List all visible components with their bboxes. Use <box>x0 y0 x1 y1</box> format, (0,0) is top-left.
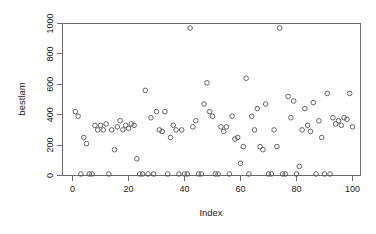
x-tick-label-0: 0 <box>70 184 75 194</box>
y-tick-label-1000: 1000 <box>45 13 55 33</box>
x-tick-label-40: 40 <box>179 184 189 194</box>
x-tick-label-100: 100 <box>345 184 360 194</box>
x-tick-label-20: 20 <box>123 184 133 194</box>
x-tick-label-80: 80 <box>291 184 301 194</box>
x-axis-title: Index <box>199 207 222 218</box>
y-tick-label-200: 200 <box>45 138 55 153</box>
y-tick-label-400: 400 <box>45 107 55 122</box>
x-tick-label-60: 60 <box>235 184 245 194</box>
y-tick-label-0: 0 <box>45 173 55 178</box>
figure-background <box>0 0 376 234</box>
y-tick-label-600: 600 <box>45 77 55 92</box>
scatter-plot-figure: 0 200 400 600 800 1000 bestlam 0 20 40 6… <box>0 0 376 234</box>
y-tick-label-800: 800 <box>45 46 55 61</box>
y-axis-title: bestlam <box>16 82 27 115</box>
scatter-plot-screenshot: 0 200 400 600 800 1000 bestlam 0 20 40 6… <box>0 0 376 234</box>
